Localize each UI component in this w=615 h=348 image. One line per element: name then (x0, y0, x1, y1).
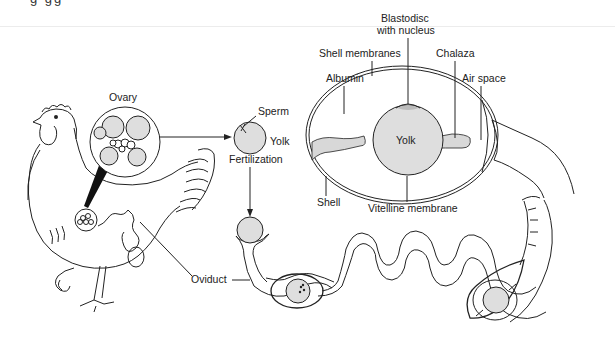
label-sperm: Sperm (258, 105, 289, 117)
hen-oviduct (98, 210, 139, 252)
label-blastodisc-1: Blastodisc (381, 12, 429, 24)
label-shell-membranes: Shell membranes (319, 47, 401, 59)
label-albumin: Albumin (326, 72, 364, 84)
label-yolk-egg: Yolk (396, 134, 416, 146)
fertilization-yolk (234, 116, 266, 154)
label-yolk-small: Yolk (270, 135, 290, 147)
label-oviduct: Oviduct (191, 273, 227, 285)
label-blastodisc-2: with nucleus (376, 24, 435, 36)
label-air-space: Air space (462, 72, 506, 84)
label-shell: Shell (317, 196, 340, 208)
ovary-zoom (90, 107, 160, 177)
egg-formation-diagram: g gg (0, 0, 615, 348)
label-vitelline-membrane: Vitelline membrane (368, 202, 458, 214)
label-ovary: Ovary (109, 91, 138, 103)
label-chalaza: Chalaza (436, 47, 475, 59)
label-fertilization: Fertilization (229, 153, 283, 165)
